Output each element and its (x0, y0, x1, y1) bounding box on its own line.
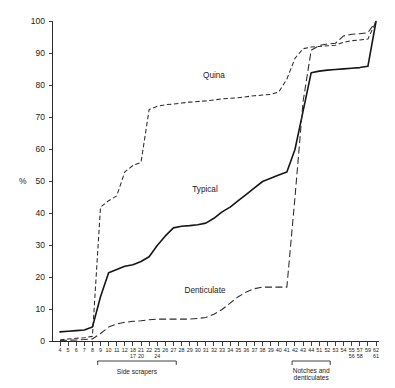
y-tick-label: 50 (36, 176, 46, 186)
chart-svg: 0102030405060708090100% 4567891011121821… (0, 0, 395, 388)
x-tick-label: 34 (227, 347, 233, 353)
x-tick-label: 26 (162, 347, 168, 353)
x-tick-label-secondary: 58 (357, 353, 363, 359)
side-scrapers-bracket (98, 361, 177, 365)
x-tick-label: 40 (276, 347, 282, 353)
x-tick-label: 52 (324, 347, 330, 353)
x-tick-label: 11 (114, 347, 120, 353)
y-tick-label: 40 (36, 208, 46, 218)
y-axis-title: % (19, 176, 27, 186)
y-tick-label: 10 (36, 304, 46, 314)
x-tick-label: 54 (341, 347, 347, 353)
x-tick-label: 31 (203, 347, 209, 353)
x-tick-label: 22 (146, 347, 152, 353)
x-tick-label: 59 (365, 347, 371, 353)
y-tick-label: 70 (36, 112, 46, 122)
x-tick-label: 39 (268, 347, 274, 353)
y-tick-label: 20 (36, 272, 46, 282)
x-tick-label: 35 (235, 347, 241, 353)
x-tick-label: 44 (308, 347, 314, 353)
x-tick-label: 10 (106, 347, 112, 353)
x-tick-label: 28 (179, 347, 185, 353)
x-tick-label-secondary: 20 (138, 353, 144, 359)
x-tick-label: 5 (67, 347, 70, 353)
x-tick-label: 8 (91, 347, 94, 353)
x-tick-label: 38 (260, 347, 266, 353)
x-tick-label: 43 (300, 347, 306, 353)
y-tick-label: 80 (36, 80, 46, 90)
x-tick-label: 33 (219, 347, 225, 353)
side-scrapers-label: Side scrapers (117, 368, 158, 376)
x-tick-label-secondary: 61 (373, 353, 379, 359)
cumulative-percentage-chart: 0102030405060708090100% 4567891011121821… (0, 0, 395, 388)
notches-denticulates-label: denticulates (294, 374, 330, 381)
series-label-typical: Typical (192, 185, 218, 194)
x-tick-label: 53 (332, 347, 338, 353)
x-tick-label: 9 (99, 347, 102, 353)
x-axis: 4567891011121821222526272829303132333435… (53, 342, 380, 360)
y-tick-label: 100 (31, 16, 45, 26)
series-label-quina: Quina (203, 71, 225, 80)
y-axis: 0102030405060708090100% (19, 16, 53, 346)
x-tick-label: 4 (59, 347, 62, 353)
x-tick-label: 42 (292, 347, 298, 353)
x-tick-label: 32 (211, 347, 217, 353)
x-tick-label: 6 (75, 347, 78, 353)
x-tick-label: 12 (122, 347, 128, 353)
x-tick-label-secondary: 24 (154, 353, 160, 359)
x-tick-label: 36 (243, 347, 249, 353)
y-tick-label: 60 (36, 144, 46, 154)
x-tick-label: 30 (195, 347, 201, 353)
x-tick-label: 7 (83, 347, 86, 353)
y-tick-label: 0 (40, 336, 45, 346)
x-tick-label-secondary: 56 (349, 353, 355, 359)
x-tick-label: 27 (170, 347, 176, 353)
x-tick-label: 41 (284, 347, 290, 353)
y-tick-label: 90 (36, 48, 46, 58)
series-label-denticulate: Denticulate (185, 286, 226, 295)
x-tick-label-secondary: 17 (130, 353, 136, 359)
x-group-brackets: Side scrapersNotches anddenticulates (98, 361, 331, 381)
notches-denticulates-bracket (292, 361, 330, 365)
notches-denticulates-label: Notches and (293, 367, 330, 374)
x-tick-label: 51 (316, 347, 322, 353)
series-annotations: QuinaTypicalDenticulate (185, 71, 226, 295)
x-tick-label: 29 (187, 347, 193, 353)
x-tick-label: 37 (251, 347, 257, 353)
y-tick-label: 30 (36, 240, 46, 250)
